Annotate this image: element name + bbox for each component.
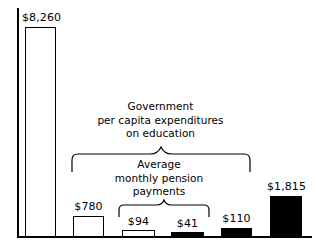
bar-2 (73, 216, 104, 237)
bar-3 (122, 230, 155, 237)
bar-1-value-label: $8,260 (22, 12, 60, 24)
x-axis-baseline (17, 236, 312, 238)
bar-2-value-label: $780 (70, 201, 107, 213)
bar-chart: $8,260 $780 $94 $41 $110 $1,815 Governme… (0, 0, 316, 245)
bar-1 (25, 27, 56, 237)
annotation-pension-payments: Average monthly pension payments (98, 158, 220, 199)
bar-5 (221, 228, 252, 237)
bar-4 (171, 232, 204, 237)
brace-inner (117, 199, 211, 217)
bar-6-value-label: $1,815 (265, 181, 308, 193)
bar-4-value-label: $41 (171, 218, 204, 230)
y-axis-line (17, 8, 19, 238)
bar-3-value-label: $94 (122, 216, 155, 228)
bar-5-value-label: $110 (217, 213, 256, 225)
annotation-government-education: Government per capita expenditures on ed… (88, 100, 233, 141)
bar-6 (270, 196, 302, 237)
